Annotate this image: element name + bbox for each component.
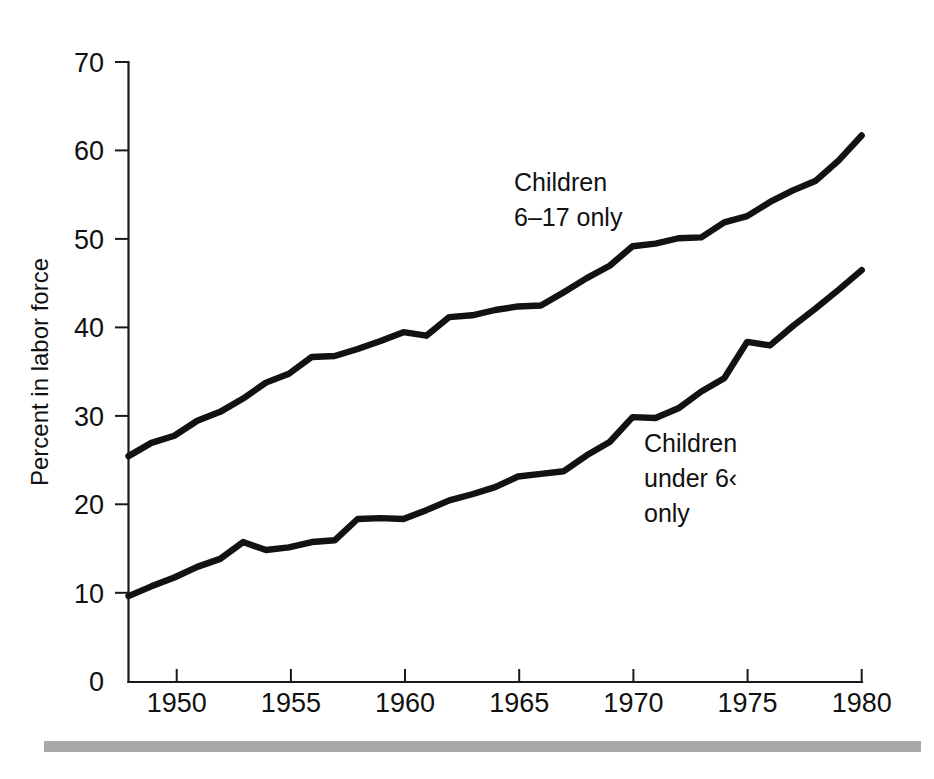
y-tick-label: 50 — [74, 225, 104, 255]
x-axis-ticks — [177, 669, 862, 682]
y-tick-label: 60 — [74, 136, 104, 166]
figure-container: Percent in labor force 70 60 50 40 30 20… — [0, 0, 934, 779]
x-tick-label: 1960 — [375, 688, 435, 718]
footer-divider-rule — [44, 741, 921, 752]
x-tick-label: 1970 — [603, 688, 663, 718]
x-axis-tick-labels: 1950 1955 1960 1965 1970 1975 1980 — [147, 688, 892, 718]
annotation-lower-line1: Children — [644, 429, 737, 457]
y-tick-label: 40 — [74, 313, 104, 343]
x-tick-label: 1975 — [718, 688, 778, 718]
line-chart: Percent in labor force 70 60 50 40 30 20… — [0, 0, 934, 779]
annotation-lower-line2: under 6‹ — [644, 464, 737, 492]
y-tick-label: 20 — [74, 490, 104, 520]
y-axis-ticks — [115, 62, 128, 593]
y-axis-tick-labels: 70 60 50 40 30 20 10 0 — [74, 48, 104, 697]
y-axis-title: Percent in labor force — [26, 258, 53, 486]
annotation-lower-line3: only — [644, 499, 690, 527]
y-tick-label: 70 — [74, 48, 104, 78]
annotation-children-6-17: Children 6–17 only — [514, 168, 623, 231]
x-tick-label: 1965 — [489, 688, 549, 718]
annotation-children-under-6: Children under 6‹ only — [644, 429, 737, 527]
x-tick-label: 1950 — [147, 688, 207, 718]
y-tick-label: 0 — [89, 667, 104, 697]
annotation-upper-line2: 6–17 only — [514, 203, 623, 231]
series-line-children-6-17 — [129, 136, 862, 457]
x-tick-label: 1955 — [261, 688, 321, 718]
y-tick-label: 30 — [74, 402, 104, 432]
series-line-children-under-6 — [129, 270, 862, 596]
x-tick-label: 1980 — [832, 688, 892, 718]
y-tick-label: 10 — [74, 579, 104, 609]
annotation-upper-line1: Children — [514, 168, 607, 196]
